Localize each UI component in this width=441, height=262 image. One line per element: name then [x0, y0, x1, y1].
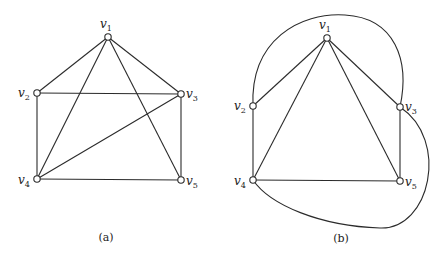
edge-v1-v4 [253, 38, 327, 180]
vertex-v4 [34, 176, 40, 182]
edge-v1-v5 [108, 37, 181, 180]
vertex-v2 [250, 103, 256, 109]
vertex-label-v4: v4 [234, 174, 246, 190]
vertex-v5 [397, 178, 403, 184]
vertex-v5 [178, 177, 184, 183]
vertex-v3 [397, 104, 403, 110]
vertex-label-v3: v3 [186, 87, 198, 103]
graph-figure: v1v2v3v4v5(a) v1v2v3v4v5(b) [0, 0, 441, 262]
graph-b: v1v2v3v4v5(b) [234, 15, 429, 245]
edge-v4-v5 [253, 180, 400, 181]
edge-v2-v3 [37, 93, 181, 94]
edge-v1-v3 [327, 38, 400, 107]
edge-v1-v2 [37, 37, 108, 93]
edge-v1-v3 [108, 37, 181, 94]
vertex-v4 [250, 177, 256, 183]
vertex-v1 [105, 34, 111, 40]
caption-b: (b) [333, 232, 349, 245]
graph-a: v1v2v3v4v5(a) [18, 17, 198, 244]
vertex-label-v4: v4 [18, 173, 30, 189]
edge-v4-v5 [37, 179, 181, 180]
curved-edge-v3-v4 [253, 107, 429, 228]
vertex-label-v1: v1 [100, 17, 112, 33]
edge-v1-v2 [253, 38, 327, 106]
vertex-v1 [324, 35, 330, 41]
vertex-label-v5: v5 [186, 174, 198, 190]
caption-a: (a) [98, 231, 113, 244]
vertex-label-v5: v5 [405, 175, 417, 191]
vertex-v3 [178, 91, 184, 97]
vertex-label-v2: v2 [18, 86, 30, 102]
vertex-v2 [34, 90, 40, 96]
vertex-label-v3: v3 [405, 100, 417, 116]
vertex-label-v1: v1 [319, 18, 331, 34]
edge-v1-v5 [327, 38, 400, 181]
vertex-label-v2: v2 [234, 99, 246, 115]
